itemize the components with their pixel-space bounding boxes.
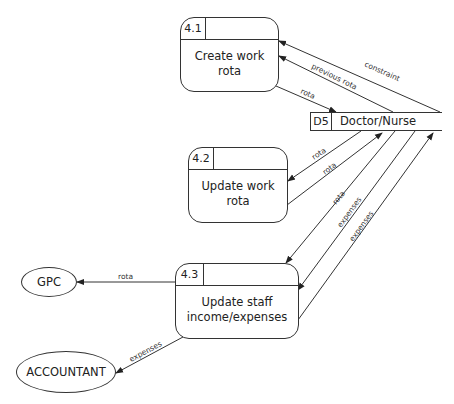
process-4-1: 4.1 Create work rota bbox=[180, 17, 279, 92]
process-4-3: 4.3 Update staff income/expenses bbox=[175, 263, 299, 339]
flow-expenses-4-3-to-accountant bbox=[116, 337, 183, 373]
data-store-name: Doctor/Nurse bbox=[332, 113, 416, 130]
flow-label-expenses-accountant: expenses bbox=[128, 339, 164, 364]
entity-accountant: ACCOUNTANT bbox=[16, 351, 116, 393]
flow-label-rota-gpc: rota bbox=[118, 272, 133, 281]
process-title: Update work rota bbox=[189, 170, 287, 209]
flow-label-constraint: constraint bbox=[363, 60, 401, 84]
entity-gpc: GPC bbox=[21, 267, 77, 297]
data-store-d5: D5 Doctor/Nurse bbox=[310, 112, 442, 131]
data-store-id: D5 bbox=[311, 113, 332, 130]
flow-label-rota-3: rota bbox=[321, 160, 338, 176]
flow-constraint bbox=[279, 41, 440, 112]
process-title: Create work rota bbox=[181, 40, 278, 79]
process-title: Update staff income/expenses bbox=[176, 286, 298, 325]
process-4-2: 4.2 Update work rota bbox=[188, 147, 288, 223]
process-id: 4.3 bbox=[176, 264, 204, 285]
process-id: 4.1 bbox=[181, 18, 206, 39]
flow-label-rota-1: rota bbox=[299, 87, 316, 101]
process-id: 4.2 bbox=[189, 148, 214, 169]
flow-label-previous-rota: previous rota bbox=[310, 62, 358, 92]
